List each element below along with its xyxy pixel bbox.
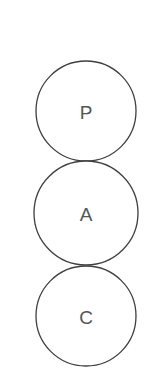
- node-p-label: P: [80, 102, 93, 123]
- pac-circle-diagram: P A C: [0, 0, 151, 382]
- node-a: A: [34, 161, 138, 265]
- node-c-label: C: [79, 307, 93, 328]
- node-c: C: [36, 266, 136, 366]
- node-p: P: [36, 61, 136, 161]
- node-a-label: A: [80, 204, 93, 225]
